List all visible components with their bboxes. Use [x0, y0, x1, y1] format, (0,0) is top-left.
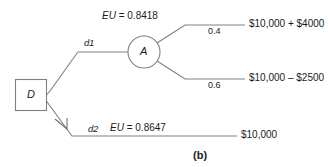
- decision-node-label: D: [27, 89, 35, 100]
- payoff-label-d2: $10,000: [241, 130, 277, 140]
- payoff-label-outcome-2: $10,000 – $2500: [249, 73, 324, 83]
- eu-value-d1: 0.8418: [127, 10, 158, 21]
- edge-d1: [47, 52, 129, 95]
- eu-label-d1: EU = 0.8418: [102, 11, 158, 21]
- eu-value-d2: 0.8647: [135, 122, 166, 133]
- figure-caption: (b): [193, 150, 207, 161]
- branch-label-d2: d2: [88, 124, 98, 134]
- probability-label-outcome-1: 0.4: [208, 27, 221, 36]
- probability-label-outcome-2: 0.6: [208, 81, 221, 90]
- edge-outcome-2: [157, 61, 245, 79]
- decision-tree-figure: D A d1 EU = 0.8418 0.4 $10,000 + $4000 0…: [0, 0, 328, 167]
- eu-label-d2: EU = 0.8647: [110, 123, 166, 133]
- eu-equals-d2: =: [124, 122, 135, 133]
- eu-symbol-d1: EU: [102, 10, 116, 21]
- selected-branch-arrow: [55, 118, 67, 129]
- payoff-label-outcome-1: $10,000 + $4000: [249, 19, 324, 29]
- chance-node-label: A: [140, 46, 147, 57]
- eu-symbol-d2: EU: [110, 122, 124, 133]
- edge-outcome-1: [157, 25, 245, 43]
- branch-label-d1: d1: [84, 38, 94, 48]
- eu-equals-d1: =: [116, 10, 127, 21]
